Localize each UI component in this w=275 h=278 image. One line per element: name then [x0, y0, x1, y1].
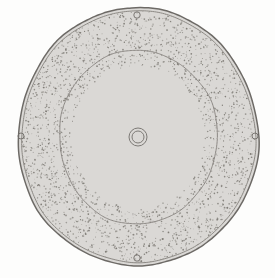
stipple-dot: [62, 75, 63, 76]
stipple-dot: [140, 37, 141, 38]
stipple-dot: [53, 182, 54, 183]
stipple-dot: [72, 35, 73, 36]
stipple-dot: [173, 208, 174, 209]
stipple-dot: [215, 211, 216, 212]
stipple-dot: [142, 221, 144, 223]
stipple-dot: [65, 197, 66, 198]
stipple-dot: [251, 132, 252, 133]
stipple-dot: [64, 98, 66, 100]
stipple-dot: [116, 247, 118, 249]
stipple-dot: [59, 64, 60, 65]
stipple-dot: [77, 221, 78, 222]
stipple-dot: [69, 84, 71, 86]
stipple-dot: [88, 24, 89, 25]
stipple-dot: [228, 162, 229, 163]
stipple-dot: [211, 225, 213, 227]
stipple-dot: [65, 48, 66, 49]
stipple-dot: [42, 143, 43, 144]
stipple-dot: [40, 186, 41, 187]
stipple-dot: [205, 123, 206, 124]
stipple-dot: [82, 67, 83, 68]
stipple-dot: [70, 166, 71, 167]
stipple-dot: [205, 220, 206, 221]
stipple-dot: [114, 247, 115, 248]
stipple-dot: [129, 32, 130, 33]
stipple-dot: [205, 53, 206, 54]
stipple-dot: [41, 156, 42, 157]
stipple-dot: [25, 132, 26, 133]
stipple-dot: [96, 65, 98, 67]
stipple-dot: [182, 249, 184, 251]
stipple-dot: [60, 198, 61, 199]
stipple-dot: [92, 45, 93, 46]
stipple-dot: [175, 253, 177, 255]
stipple-dot: [205, 38, 206, 39]
stipple-dot: [174, 64, 175, 65]
stipple-dot: [190, 90, 191, 91]
stipple-dot: [136, 32, 137, 33]
stipple-dot: [94, 71, 95, 72]
stipple-dot: [169, 252, 170, 253]
stipple-dot: [42, 124, 43, 125]
stipple-dot: [196, 209, 198, 211]
stipple-dot: [78, 71, 79, 72]
stipple-dot: [168, 16, 169, 17]
stipple-dot: [138, 16, 139, 17]
stipple-dot: [175, 42, 176, 43]
stipple-dot: [89, 75, 90, 76]
stipple-dot: [184, 190, 185, 191]
stipple-dot: [201, 88, 203, 90]
stipple-dot: [90, 194, 91, 195]
stipple-dot: [188, 60, 189, 61]
stipple-dot: [103, 39, 105, 41]
stipple-dot: [67, 69, 68, 70]
stipple-dot: [209, 168, 211, 170]
stipple-dot: [65, 214, 67, 216]
stipple-dot: [148, 42, 150, 44]
stipple-dot: [224, 157, 225, 158]
stipple-dot: [30, 111, 31, 112]
stipple-dot: [78, 236, 79, 237]
stipple-dot: [224, 117, 225, 118]
stipple-dot: [78, 242, 79, 243]
stipple-dot: [200, 207, 202, 209]
stipple-dot: [211, 191, 212, 192]
stipple-dot: [67, 46, 68, 47]
stipple-dot: [102, 233, 103, 234]
stipple-dot: [187, 215, 188, 216]
stipple-dot: [175, 43, 177, 45]
stipple-dot: [99, 29, 100, 30]
stipple-dot: [73, 169, 74, 170]
stipple-dot: [214, 193, 216, 195]
stipple-dot: [130, 59, 131, 60]
stipple-dot: [93, 244, 94, 245]
stipple-dot: [228, 88, 229, 89]
stipple-dot: [116, 230, 118, 232]
stipple-dot: [53, 214, 54, 215]
stipple-dot: [59, 100, 60, 101]
stipple-dot: [232, 174, 233, 175]
stipple-dot: [56, 70, 57, 71]
stipple-dot: [175, 239, 177, 241]
stipple-dot: [59, 71, 61, 73]
stipple-dot: [34, 182, 35, 183]
stipple-dot: [37, 125, 38, 126]
stipple-dot: [63, 84, 65, 86]
stipple-dot: [24, 149, 25, 150]
stipple-dot: [23, 145, 25, 147]
stipple-dot: [164, 228, 165, 229]
stipple-dot: [73, 173, 74, 174]
stipple-dot: [146, 20, 147, 21]
stipple-dot: [194, 222, 196, 224]
stipple-dot: [234, 164, 235, 165]
stipple-dot: [191, 30, 193, 32]
stipple-dot: [46, 106, 48, 108]
stipple-dot: [91, 223, 92, 224]
stipple-dot: [202, 58, 203, 59]
stipple-dot: [63, 80, 64, 81]
stipple-dot: [108, 65, 109, 66]
stipple-dot: [48, 139, 50, 141]
stipple-dot: [158, 205, 159, 206]
stipple-dot: [83, 92, 84, 93]
stipple-dot: [229, 208, 230, 209]
